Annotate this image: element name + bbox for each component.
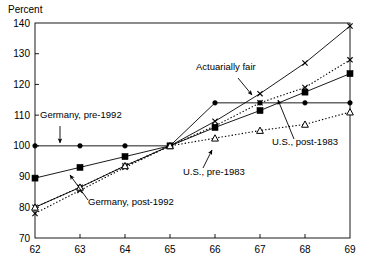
annotation-label: Actuarially fair — [196, 61, 256, 72]
annotation-label: U.S., pre-1983 — [183, 166, 245, 177]
x-tick-label: 65 — [164, 244, 176, 255]
data-point-marker-circle — [33, 144, 38, 149]
x-tick-label: 67 — [254, 244, 266, 255]
line-chart-plot: 1401301201101009080706263646566676869 Ac… — [0, 0, 365, 267]
plot-frame — [35, 23, 350, 238]
x-tick-label: 63 — [74, 244, 86, 255]
y-tick-label: 70 — [19, 233, 31, 244]
y-tick-label: 100 — [13, 140, 30, 151]
data-point-marker-square — [257, 108, 263, 114]
data-point-marker-circle — [78, 144, 83, 149]
y-axis-title: Percent — [8, 4, 42, 15]
data-point-marker-square — [302, 89, 308, 95]
data-point-marker-x — [302, 60, 307, 65]
data-point-marker-circle — [123, 144, 128, 149]
data-point-marker-square — [347, 71, 353, 77]
y-tick-label: 110 — [14, 110, 30, 121]
annotation-arrow — [278, 100, 294, 139]
data-point-marker-triangle — [302, 121, 309, 127]
x-tick-label: 69 — [344, 244, 356, 255]
x-tick-label: 62 — [29, 244, 41, 255]
annotation-arrow — [238, 78, 252, 95]
data-point-marker-circle — [213, 101, 218, 106]
data-point-marker-triangle — [212, 135, 219, 141]
data-point-marker-square — [212, 124, 218, 130]
y-tick-label: 80 — [19, 202, 31, 213]
annotation-arrow — [70, 175, 88, 200]
y-tick-label: 90 — [19, 171, 31, 182]
y-tick-label: 120 — [13, 79, 30, 90]
annotation-label: Germany, post-1992 — [88, 196, 174, 207]
data-point-marker-circle — [303, 101, 308, 106]
chart-container: Percent 14013012011010090807062636465666… — [0, 0, 365, 267]
data-point-marker-square — [122, 154, 128, 160]
x-tick-label: 66 — [209, 244, 221, 255]
data-point-marker-square — [32, 175, 38, 181]
annotation-label: U.S., post-1983 — [272, 136, 338, 147]
x-tick-label: 64 — [119, 244, 131, 255]
data-point-marker-circle — [348, 101, 353, 106]
data-point-marker-x — [257, 91, 262, 96]
annotation-label: Germany, pre-1992 — [40, 109, 122, 120]
data-point-marker-square — [77, 164, 83, 170]
y-tick-label: 130 — [13, 48, 30, 59]
x-tick-label: 68 — [299, 244, 311, 255]
y-tick-label: 140 — [13, 18, 30, 29]
data-point-marker-triangle — [347, 109, 354, 115]
data-point-marker-x — [212, 119, 217, 124]
